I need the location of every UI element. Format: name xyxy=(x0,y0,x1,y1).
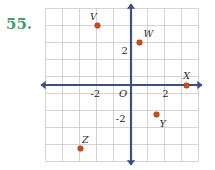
origin-label: O xyxy=(119,89,127,99)
axes xyxy=(45,8,206,163)
point-z xyxy=(78,146,83,151)
x-tick-label-0: -2 xyxy=(90,89,100,99)
point-label-v: V xyxy=(90,12,97,22)
point-label-w: W xyxy=(144,29,154,39)
y-tick-label-1: -2 xyxy=(116,114,126,124)
coordinate-plane: -222-2O VWXYZ xyxy=(45,8,206,163)
point-v xyxy=(95,23,100,28)
problem-number: 55. xyxy=(6,17,32,32)
point-label-y: Y xyxy=(160,119,166,129)
x-tick-label-1: 2 xyxy=(162,89,168,99)
y-tick-label-0: 2 xyxy=(121,46,127,56)
point-label-z: Z xyxy=(82,135,89,145)
point-x xyxy=(184,83,189,88)
point-label-x: X xyxy=(183,71,190,81)
point-w xyxy=(137,40,142,45)
worksheet-problem: 55. -222-2O VWXYZ xyxy=(0,0,215,170)
